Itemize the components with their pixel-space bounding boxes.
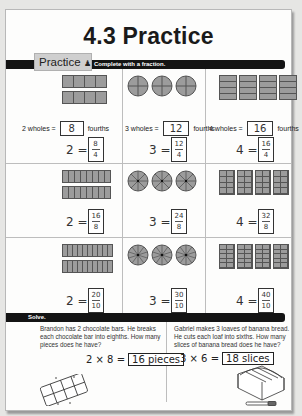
exercise-row: 2 = 168 3 = 248 bbox=[6, 164, 291, 238]
fraction-model-bars bbox=[62, 170, 111, 199]
worksheet-page: 4.3 Practice Practice♟ Complete with a f… bbox=[5, 9, 292, 411]
exercise-cell: 4 = 4010 bbox=[206, 238, 291, 318]
wholes-equation: 4 wholes = 16 fourths bbox=[209, 121, 299, 136]
fraction-model-circles bbox=[127, 244, 197, 266]
exercise-cell: 3 wholes = 12 fourths 3 = 124 bbox=[123, 69, 206, 163]
exercise-cell: 2 = 168 bbox=[6, 164, 123, 237]
fraction-answer-box[interactable]: 2010 bbox=[88, 288, 105, 313]
fraction-answer-box[interactable]: 248 bbox=[171, 209, 188, 234]
exercise-cell: 4 wholes = 16 fourths 4 = 164 bbox=[206, 69, 291, 163]
word-problem-2: Gabriel makes 3 loaves of banana bread. … bbox=[174, 325, 294, 349]
fraction-answer-box[interactable]: 4010 bbox=[258, 288, 275, 313]
fraction-equation: 3 = 248 bbox=[149, 209, 187, 234]
word-problem-1: Brandon has 2 chocolate bars. He breaks … bbox=[40, 325, 165, 349]
fraction-answer-box[interactable]: 124 bbox=[171, 137, 188, 162]
fraction-equation: 3 = 124 bbox=[149, 137, 187, 162]
answer-box[interactable]: 12 bbox=[163, 121, 190, 136]
page-title: 4.3 Practice bbox=[6, 23, 291, 50]
exercise-cell: 4 = 328 bbox=[206, 164, 291, 237]
fraction-model-stacks bbox=[219, 75, 297, 100]
fraction-model-circles bbox=[127, 75, 197, 97]
banana-bread-icon bbox=[232, 362, 290, 408]
person-icon: ♟ bbox=[84, 59, 91, 68]
exercise-grid: 2 wholes = 8 fourths 2 = 84 3 wholes = bbox=[6, 69, 291, 318]
fraction-model-bars bbox=[62, 244, 113, 273]
fraction-model-bars bbox=[62, 75, 107, 104]
fraction-equation: 2 = 2010 bbox=[66, 288, 104, 313]
fraction-equation: 4 = 4010 bbox=[236, 288, 274, 313]
fraction-model-blocks bbox=[219, 244, 289, 269]
practice-label: Practice bbox=[39, 56, 81, 68]
fraction-model-blocks bbox=[219, 170, 289, 195]
solve-bar bbox=[6, 313, 285, 322]
fraction-equation: 3 = 3010 bbox=[149, 288, 187, 313]
fraction-answer-box[interactable]: 84 bbox=[88, 137, 104, 162]
fraction-answer-box[interactable]: 328 bbox=[258, 209, 275, 234]
solve-label: Solve. bbox=[28, 314, 46, 320]
exercise-cell: 2 wholes = 8 fourths 2 = 84 bbox=[6, 69, 123, 163]
instruction-text: Complete with a fraction. bbox=[94, 61, 165, 67]
exercise-cell: 2 = 2010 bbox=[6, 238, 123, 318]
exercise-cell: 3 = 248 bbox=[123, 164, 206, 237]
fraction-answer-box[interactable]: 3010 bbox=[171, 288, 188, 313]
exercise-cell: 3 = 3010 bbox=[123, 238, 206, 318]
wholes-equation: 3 wholes = 12 fourths bbox=[125, 121, 215, 136]
fraction-equation: 4 = 164 bbox=[236, 137, 274, 162]
fraction-answer-box[interactable]: 164 bbox=[258, 137, 275, 162]
answer-box[interactable]: 8 bbox=[60, 121, 84, 136]
chocolate-bar-icon bbox=[34, 374, 92, 406]
fraction-model-circles bbox=[127, 170, 197, 192]
fraction-equation: 2 = 84 bbox=[66, 137, 104, 162]
answer-box[interactable]: 16 bbox=[247, 121, 274, 136]
exercise-row: 2 wholes = 8 fourths 2 = 84 3 wholes = bbox=[6, 69, 291, 164]
fraction-equation: 4 = 328 bbox=[236, 209, 274, 234]
exercise-row: 2 = 2010 3 = 3010 bbox=[6, 238, 291, 318]
answer-box[interactable]: 16 pieces bbox=[128, 353, 184, 366]
fraction-equation: 2 = 168 bbox=[66, 209, 104, 234]
fraction-answer-box[interactable]: 168 bbox=[88, 209, 105, 234]
word-problem-1-equation: 2 × 8 = 16 pieces bbox=[86, 353, 184, 366]
wholes-equation: 2 wholes = 8 fourths bbox=[22, 121, 109, 136]
